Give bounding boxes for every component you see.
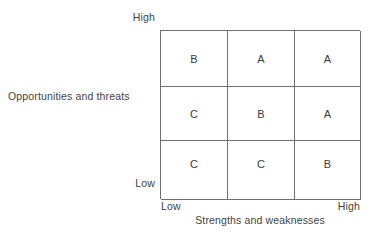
matrix-cell: A (295, 87, 361, 141)
x-axis-title: Strengths and weaknesses (160, 214, 360, 226)
y-axis-low-label: Low (100, 177, 155, 189)
matrix-cell: C (161, 87, 228, 141)
matrix-cell: B (295, 141, 361, 200)
matrix-cell: A (228, 31, 295, 87)
matrix-cell: B (161, 31, 228, 87)
matrix-grid: B A A C B A C C B (160, 30, 360, 199)
matrix-cell: C (228, 141, 295, 200)
matrix-cell: A (295, 31, 361, 87)
matrix-cell: B (228, 87, 295, 141)
y-axis-high-label: High (100, 11, 155, 23)
chart-canvas: Opportunities and threats High Low B A A… (0, 0, 378, 242)
y-axis-title: Opportunities and threats (8, 90, 156, 102)
x-axis-high-label: High (300, 200, 360, 212)
x-axis-low-label: Low (161, 200, 181, 212)
matrix-cell: C (161, 141, 228, 200)
